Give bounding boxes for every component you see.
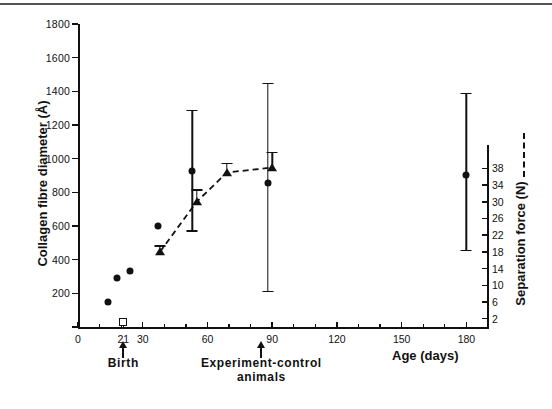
y-tick-label-800: 800 — [52, 186, 70, 198]
y2-tick-label-22: 22 — [492, 229, 504, 241]
x-tick-label-180: 180 — [458, 333, 476, 345]
x-tick-label-30: 30 — [137, 333, 149, 345]
y2-tick-26 — [482, 218, 488, 220]
y2-tick-label-30: 30 — [492, 196, 504, 208]
y2-tick-label-38: 38 — [492, 162, 504, 174]
data-point-1-0 — [155, 247, 165, 255]
error-cap-top-0-5 — [187, 110, 198, 111]
y2-tick-14 — [482, 268, 488, 270]
x-minor-tick-160 — [423, 324, 424, 328]
error-cap-top-1-1 — [191, 189, 202, 190]
x-tick-label-90: 90 — [266, 333, 278, 345]
x-tick-180 — [466, 322, 468, 328]
x-minor-tick-70 — [228, 324, 229, 328]
y-tick-600 — [72, 225, 78, 227]
x-axis-line — [78, 327, 489, 329]
y-tick-label-1600: 1600 — [46, 52, 70, 64]
x-minor-tick-10 — [99, 324, 100, 328]
x-tick-label-0: 0 — [75, 333, 81, 345]
y-tick-label-1800: 1800 — [46, 18, 70, 30]
y-tick-1600 — [72, 57, 78, 59]
y2-tick-label-34: 34 — [492, 179, 504, 191]
data-point-1-1 — [192, 197, 202, 205]
y-tick-label-600: 600 — [52, 220, 70, 232]
data-point-0-2 — [119, 318, 127, 326]
y2-tick-2 — [482, 318, 488, 320]
y2-tick-label-6: 6 — [492, 296, 498, 308]
legend-dashed-line-sample — [523, 133, 525, 177]
y2-tick-label-18: 18 — [492, 246, 504, 258]
x-tick-label-150: 150 — [393, 333, 411, 345]
x-minor-tick-80 — [250, 324, 251, 328]
experiment-control-line1: Experiment-control — [201, 356, 322, 370]
y-tick-label-1200: 1200 — [46, 119, 70, 131]
y2-tick-22 — [482, 234, 488, 236]
x-tick-60 — [207, 322, 209, 328]
data-point-1-3 — [267, 163, 277, 171]
y2-tick-34 — [482, 184, 488, 186]
figure-collagen-separation-force: Collagen fibre diameter (Å) Separation f… — [0, 0, 552, 409]
x-minor-tick-50 — [185, 324, 186, 328]
y2-tick-6 — [482, 301, 488, 303]
y2-tick-label-26: 26 — [492, 212, 504, 224]
x-tick-90 — [271, 322, 273, 328]
experiment-control-line2: animals — [237, 370, 286, 384]
x-minor-tick-100 — [293, 324, 294, 328]
error-cap-top-0-6 — [262, 83, 273, 84]
error-bar-0-6 — [267, 83, 268, 291]
data-point-0-7 — [463, 171, 470, 178]
x-tick-label-60: 60 — [202, 333, 214, 345]
y2-tick-label-10: 10 — [492, 279, 504, 291]
data-point-0-0 — [105, 298, 112, 305]
x-minor-tick-140 — [379, 324, 380, 328]
y2-tick-38 — [482, 168, 488, 170]
x-tick-30 — [142, 322, 144, 328]
y2-tick-18 — [482, 251, 488, 253]
y-tick-label-200: 200 — [52, 287, 70, 299]
y2-tick-30 — [482, 201, 488, 203]
x-tick-150 — [401, 322, 403, 328]
data-point-0-6 — [264, 180, 271, 187]
error-cap-top-1-3 — [267, 152, 278, 153]
y-tick-label-1400: 1400 — [46, 85, 70, 97]
y-axis-line — [78, 24, 80, 328]
data-point-0-3 — [126, 267, 133, 274]
x-minor-tick-130 — [358, 324, 359, 328]
data-point-0-5 — [189, 168, 196, 175]
data-point-0-1 — [113, 275, 120, 282]
y-tick-1400 — [72, 91, 78, 93]
x-minor-tick-110 — [315, 324, 316, 328]
y2-tick-label-14: 14 — [492, 263, 504, 275]
y2-tick-10 — [482, 285, 488, 287]
error-cap-bottom-0-6 — [262, 291, 273, 292]
error-cap-bottom-0-5 — [187, 230, 198, 231]
separation-force-dashed-connector — [0, 0, 552, 409]
x-axis-title: Age (days) — [392, 348, 458, 363]
y-tick-800 — [72, 192, 78, 194]
data-point-0-4 — [154, 223, 161, 230]
error-cap-top-1-2 — [221, 163, 232, 164]
y2-tick-label-2: 2 — [492, 313, 498, 325]
y-tick-200 — [72, 293, 78, 295]
y-tick-1800 — [72, 23, 78, 25]
y-tick-label-400: 400 — [52, 254, 70, 266]
experiment-control-annotation-label: Experiment-control animals — [201, 357, 322, 385]
birth-annotation-label: Birth — [108, 357, 139, 371]
error-cap-bottom-0-7 — [461, 250, 472, 251]
data-point-1-2 — [222, 168, 232, 176]
page-top-rule — [0, 3, 552, 5]
x-tick-120 — [336, 322, 338, 328]
x-minor-tick-40 — [164, 324, 165, 328]
y-tick-1200 — [72, 124, 78, 126]
error-cap-top-0-7 — [461, 93, 472, 94]
y-tick-1000 — [72, 158, 78, 160]
x-minor-tick-170 — [444, 324, 445, 328]
secondary-y-axis-title: Separation force (N) — [513, 144, 528, 344]
x-tick-label-120: 120 — [328, 333, 346, 345]
x-tick-0 — [77, 322, 79, 328]
y-tick-400 — [72, 259, 78, 261]
y-tick-label-1000: 1000 — [46, 153, 70, 165]
